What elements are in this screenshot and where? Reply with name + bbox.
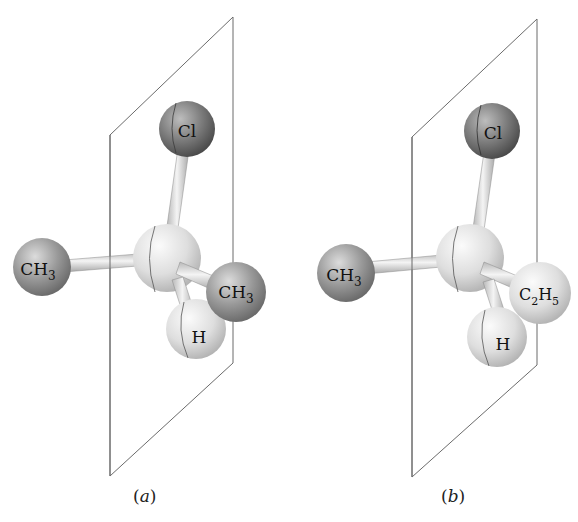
atom-ch3-left: CH3	[13, 238, 71, 296]
atom-cl: Cl	[159, 101, 215, 157]
caption-paren: (	[133, 486, 140, 506]
caption-letter: a	[140, 486, 150, 506]
atom-h-label: H	[192, 327, 207, 347]
stereochemistry-figure: Cl CH3 H CH3	[0, 0, 578, 522]
atom-ch3-right: CH3	[206, 262, 266, 322]
panel-b: Cl CH3 H C2H5	[317, 19, 571, 477]
atom-c2h5-right: C2H5	[509, 262, 571, 324]
atom-h-label: H	[496, 334, 511, 354]
caption-paren: )	[150, 486, 157, 506]
caption-a: (a)	[133, 486, 156, 506]
caption-paren: (	[441, 486, 448, 506]
caption-letter: b	[448, 486, 459, 506]
atom-carbon-center	[133, 224, 201, 292]
atom-cl-label: Cl	[484, 123, 502, 143]
bond-top	[167, 148, 189, 228]
panel-a: Cl CH3 H CH3	[13, 17, 266, 476]
bond-top	[473, 152, 495, 230]
atom-ch3-left: CH3	[317, 244, 375, 302]
caption-b: (b)	[441, 486, 465, 506]
atom-cl-label: Cl	[178, 121, 196, 141]
atom-cl: Cl	[464, 103, 520, 159]
atom-h: H	[467, 307, 527, 367]
caption-paren: )	[459, 486, 466, 506]
